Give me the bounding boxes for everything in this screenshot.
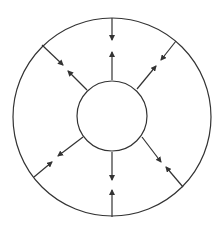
arrow-lower-right-outward-icon bbox=[142, 137, 161, 162]
arrow-upper-right-inward-icon bbox=[161, 41, 176, 60]
arrows-group bbox=[34, 18, 183, 217]
arrow-upper-right-outward-icon bbox=[137, 66, 156, 89]
arrow-lower-right-inward-icon bbox=[166, 167, 183, 187]
outer-circle bbox=[13, 18, 211, 216]
inner-circle bbox=[77, 81, 147, 151]
arrow-lower-left-outward-icon bbox=[58, 137, 83, 156]
concentric-circles-diagram bbox=[0, 0, 220, 227]
arrow-upper-left-outward-icon bbox=[68, 71, 87, 90]
arrow-lower-left-inward-icon bbox=[34, 162, 52, 177]
arrow-upper-left-inward-icon bbox=[42, 45, 63, 65]
